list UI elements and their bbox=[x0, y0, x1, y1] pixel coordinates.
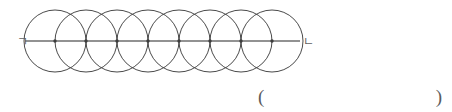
endpoint-label-left: ㄱ bbox=[17, 35, 28, 49]
center-dot-2 bbox=[84, 39, 87, 42]
center-dot-1 bbox=[53, 39, 56, 42]
answer-blank: ( ) bbox=[258, 82, 442, 110]
answer-input-area[interactable] bbox=[264, 96, 435, 97]
center-dot-4 bbox=[146, 39, 149, 42]
center-dot-7 bbox=[239, 39, 242, 42]
figure-root: ㄱ ㄴ ( ) bbox=[0, 0, 452, 112]
endpoint-label-right: ㄴ bbox=[303, 35, 314, 49]
close-paren: ) bbox=[436, 87, 442, 106]
center-dot-5 bbox=[177, 39, 180, 42]
center-dot-3 bbox=[115, 39, 118, 42]
center-dot-8 bbox=[270, 39, 273, 42]
center-dot-6 bbox=[208, 39, 211, 42]
